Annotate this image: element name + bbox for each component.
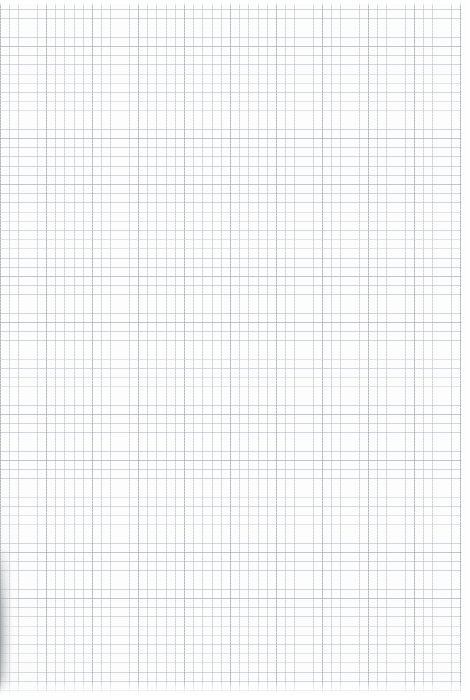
- graph-paper-scan: [0, 0, 470, 700]
- right-margin-white: [461, 0, 470, 700]
- top-margin-fade: [0, 0, 470, 6]
- grid-major-lines: [0, 0, 462, 694]
- bottom-margin-fade: [0, 682, 470, 700]
